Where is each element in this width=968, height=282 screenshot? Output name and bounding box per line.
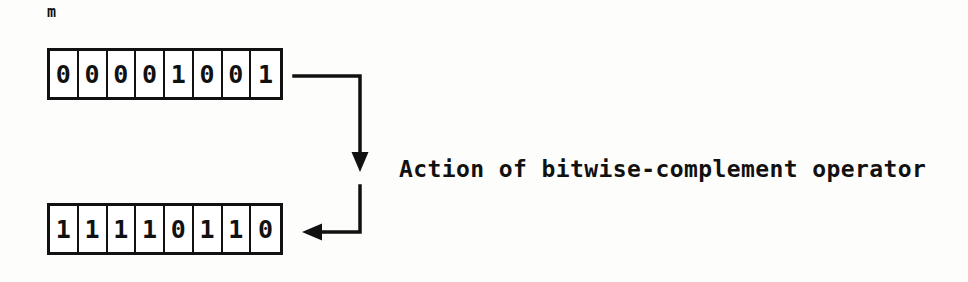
bit-cell: 0 [50,51,79,97]
bit-cell: 0 [223,51,252,97]
bit-cell: 1 [165,51,194,97]
bit-cell: 0 [108,51,137,97]
bit-cell: 0 [251,206,280,252]
bit-cell: 0 [194,51,223,97]
diagram-caption: Action of bitwise-complement operator [399,155,926,183]
variable-label-m: m [47,4,56,20]
bit-cell: 1 [194,206,223,252]
bit-cell: 1 [108,206,137,252]
bit-cell: 0 [165,206,194,252]
bit-cell: 0 [136,51,165,97]
bit-cell: 1 [251,51,280,97]
left-arrow [302,186,360,241]
bit-cell: 1 [50,206,79,252]
input-bit-row: 00001001 [47,48,283,100]
down-arrow [294,76,369,172]
output-bit-row: 11110110 [47,203,283,255]
bit-cell: 1 [223,206,252,252]
bit-cell: 0 [79,51,108,97]
bit-cell: 1 [79,206,108,252]
bit-cell: 1 [136,206,165,252]
bitwise-complement-diagram: m 00001001 11110110 Action of bitwise-co… [0,0,968,282]
